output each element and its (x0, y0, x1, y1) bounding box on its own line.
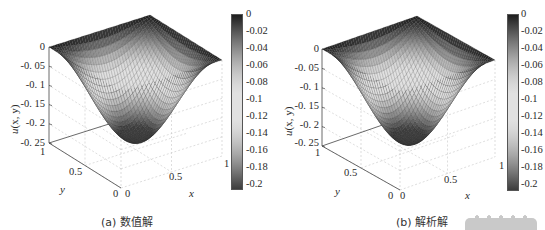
colorbar-tick: -0.06 (521, 59, 543, 70)
colorbar-tick: 0 (521, 8, 526, 19)
colorbar-tick: 0 (246, 8, 251, 19)
colorbar (507, 14, 519, 191)
y-tick: 0 (113, 188, 118, 199)
x-tick: 0.5 (169, 171, 182, 182)
colorbar-tick: -0.16 (521, 144, 543, 155)
x-axis-label: x (465, 189, 470, 201)
z-axis-label: u(x, y) (282, 107, 294, 136)
y-tick: 0.5 (344, 167, 357, 178)
watermark-stamp (465, 218, 537, 230)
colorbar-tick: -0.02 (521, 25, 543, 36)
z-tick: -0. 2 (300, 119, 319, 130)
z-tick: -0. 05 (295, 62, 320, 73)
x-tick: 0 (400, 190, 405, 201)
caption-b: (b) 解析解 (396, 213, 448, 229)
z-tick: 0 (314, 43, 319, 54)
y-tick: 1 (315, 147, 320, 158)
colorbar-tick: -0.12 (521, 110, 543, 121)
z-tick: -0. 1 (300, 81, 319, 92)
z-tick: -0. 15 (295, 100, 320, 111)
surface-plot-b (273, 0, 545, 230)
z-tick: -0. 05 (21, 60, 46, 71)
y-tick: 1 (40, 146, 45, 157)
z-tick: -0. 2 (26, 117, 45, 128)
z-tick: -0. 1 (26, 79, 45, 90)
x-tick: 1 (224, 158, 229, 169)
x-tick: 0 (125, 188, 130, 199)
panel-analytical-solution: u(x, y) 0 -0. 05 -0. 1 -0. 15 -0. 2 -0. … (273, 0, 545, 230)
colorbar-tick: -0.06 (246, 59, 268, 70)
colorbar-tick: -0.1 (521, 93, 538, 104)
colorbar-tick: -0.1 (246, 93, 263, 104)
y-axis-label: y (335, 185, 340, 197)
colorbar-tick: -0.08 (246, 76, 268, 87)
colorbar-tick: -0.2 (246, 178, 263, 189)
colorbar-tick: -0.08 (521, 76, 543, 87)
x-tick: 0.5 (444, 174, 457, 185)
z-tick: 0 (40, 41, 45, 52)
colorbar-tick: -0.2 (521, 178, 538, 189)
colorbar-tick: -0.12 (246, 110, 268, 121)
colorbar-tick: -0.16 (246, 144, 268, 155)
x-tick: 1 (499, 160, 504, 171)
colorbar-tick: -0.02 (246, 25, 268, 36)
colorbar (231, 14, 243, 190)
colorbar-tick: -0.14 (246, 127, 268, 138)
colorbar-tick: -0.04 (521, 42, 543, 53)
caption-a: (a) 数值解 (101, 213, 153, 229)
colorbar-tick: -0.14 (521, 127, 543, 138)
panel-numerical-solution: u(x, y) 0 -0. 05 -0. 1 -0. 15 -0. 2 -0. … (0, 0, 275, 230)
colorbar-tick: -0.04 (246, 42, 268, 53)
y-tick: 0.5 (69, 166, 82, 177)
colorbar-tick: -0.18 (521, 161, 543, 172)
x-axis-label: x (189, 187, 194, 199)
y-axis-label: y (60, 183, 65, 195)
colorbar-tick: -0.18 (246, 161, 268, 172)
z-tick: -0. 15 (21, 98, 46, 109)
z-axis-label: u(x, y) (8, 105, 20, 134)
y-tick: 0 (388, 190, 393, 201)
